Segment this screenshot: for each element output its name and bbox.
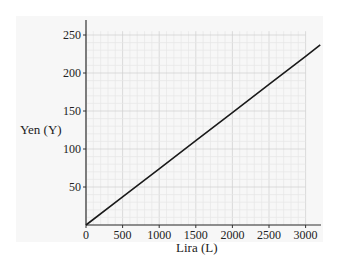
x-tick-label: 500 bbox=[114, 228, 132, 242]
y-tick-label: 250 bbox=[63, 28, 81, 42]
x-axis-label: Lira (L) bbox=[176, 240, 218, 256]
y-tick-label: 100 bbox=[63, 142, 81, 156]
y-axis-label: Yen (Y) bbox=[20, 122, 62, 138]
x-tick-label: 1000 bbox=[147, 228, 171, 242]
x-tick-label: 2500 bbox=[257, 228, 281, 242]
x-tick-label: 3000 bbox=[294, 228, 318, 242]
x-tick-label: 2000 bbox=[220, 228, 244, 242]
y-tick-label: 50 bbox=[69, 180, 81, 194]
y-tick-label: 150 bbox=[63, 104, 81, 118]
grid bbox=[86, 31, 306, 225]
x-tick-label: 0 bbox=[83, 228, 89, 242]
y-tick-label: 200 bbox=[63, 66, 81, 80]
